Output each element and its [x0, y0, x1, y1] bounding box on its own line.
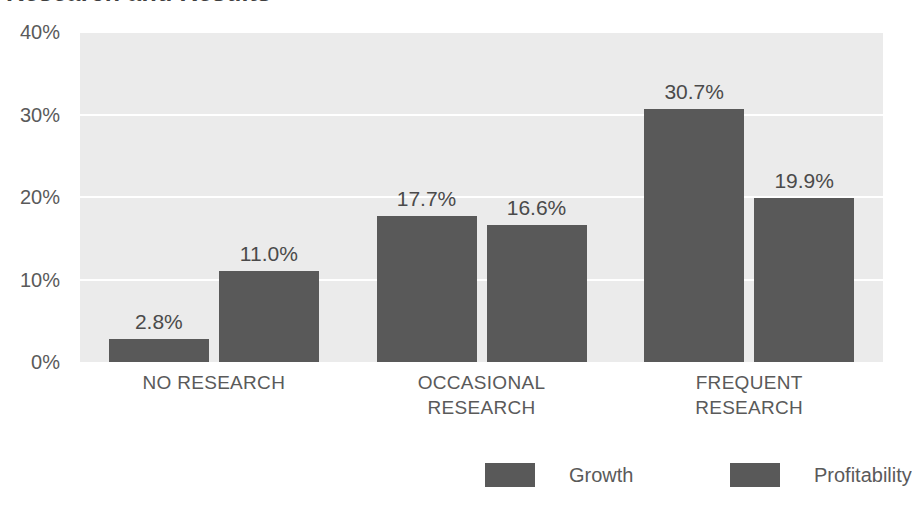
bar [377, 216, 477, 362]
y-axis-tick-label: 40% [20, 21, 60, 44]
bar-value-label: 17.7% [377, 187, 477, 211]
x-axis-category-label: NO RESEARCH [80, 370, 348, 395]
legend-swatch [730, 463, 780, 487]
bar [644, 109, 744, 362]
bar [487, 225, 587, 362]
x-axis-category-label: FREQUENTRESEARCH [615, 370, 883, 420]
chart-legend: GrowthProfitability [0, 460, 883, 500]
y-axis-tick-label: 20% [20, 186, 60, 209]
legend-label: Profitability [814, 464, 912, 487]
bar-value-label: 11.0% [219, 242, 319, 266]
legend-label: Growth [569, 464, 633, 487]
plot-area: 2.8%11.0%17.7%16.6%30.7%19.9% [80, 32, 883, 362]
bar-value-label: 30.7% [644, 80, 744, 104]
bar-value-label: 2.8% [109, 310, 209, 334]
bar-value-label: 16.6% [487, 196, 587, 220]
gridline [80, 32, 883, 33]
x-axis-category-line: FREQUENT [615, 370, 883, 395]
x-axis-category-label: OCCASIONALRESEARCH [348, 370, 616, 420]
gridline [80, 114, 883, 116]
y-axis-tick-label: 30% [20, 103, 60, 126]
x-axis-category-line: RESEARCH [615, 395, 883, 420]
bar [219, 271, 319, 362]
bar [754, 198, 854, 362]
x-axis-labels: NO RESEARCHOCCASIONALRESEARCHFREQUENTRES… [80, 370, 883, 430]
bar-value-label: 19.9% [754, 169, 854, 193]
y-axis-tick-label: 0% [31, 351, 60, 374]
bar [109, 339, 209, 362]
chart-title: Research and Results [6, 0, 271, 7]
x-axis-category-line: RESEARCH [348, 395, 616, 420]
x-axis-category-line: OCCASIONAL [348, 370, 616, 395]
y-axis: 40%30%20%10%0% [0, 32, 72, 362]
legend-item[interactable]: Growth [485, 460, 633, 490]
x-axis-category-line: NO RESEARCH [80, 370, 348, 395]
legend-swatch [485, 463, 535, 487]
y-axis-tick-label: 10% [20, 268, 60, 291]
legend-item[interactable]: Profitability [730, 460, 912, 490]
